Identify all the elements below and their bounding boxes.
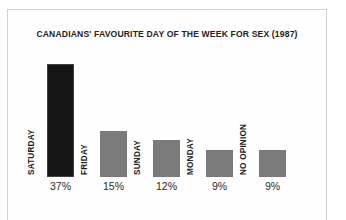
bar-group: NO OPINION xyxy=(259,55,286,177)
category-label: NO OPINION xyxy=(239,124,248,175)
value-label: 37% xyxy=(35,180,86,192)
bar-group: MONDAY xyxy=(206,55,233,177)
category-label: SUNDAY xyxy=(133,140,142,175)
category-label: FRIDAY xyxy=(80,144,89,175)
bar xyxy=(259,150,286,177)
value-label-row: 37%15%12%9%9% xyxy=(7,180,327,198)
bar xyxy=(206,150,233,177)
bar-group: SUNDAY xyxy=(153,55,180,177)
bar xyxy=(153,140,180,177)
bar-group: SATURDAY xyxy=(47,55,74,177)
category-label: MONDAY xyxy=(186,138,195,175)
value-label: 9% xyxy=(194,180,245,192)
value-label: 15% xyxy=(88,180,139,192)
value-label: 9% xyxy=(247,180,298,192)
bar xyxy=(47,64,74,177)
bar-group: FRIDAY xyxy=(100,55,127,177)
plot-area: SATURDAYFRIDAYSUNDAYMONDAYNO OPINION xyxy=(7,55,327,177)
chart-figure: CANADIANS' FAVOURITE DAY OF THE WEEK FOR… xyxy=(0,0,346,220)
category-label: SATURDAY xyxy=(27,129,36,175)
value-label: 12% xyxy=(141,180,192,192)
chart-title: CANADIANS' FAVOURITE DAY OF THE WEEK FOR… xyxy=(0,29,334,39)
bar xyxy=(100,131,127,177)
